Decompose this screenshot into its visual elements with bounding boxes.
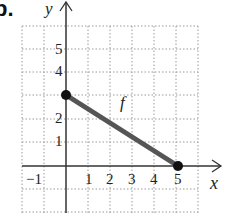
x-tick-label: 5	[174, 172, 182, 187]
y-tick-label: 2	[55, 111, 63, 126]
y-tick-label: 4	[55, 64, 63, 79]
start-point	[61, 90, 71, 100]
y-axis-label: y	[45, 0, 53, 17]
x-axis-label: x	[210, 174, 218, 192]
y-tick-label: 5	[55, 42, 63, 57]
y-axis	[60, 2, 72, 213]
x-axis	[22, 160, 221, 172]
x-tick-label: 4	[150, 172, 158, 187]
end-point	[173, 161, 183, 171]
x-tick-label: 3	[128, 172, 136, 187]
y-tick-label: 1	[55, 134, 63, 149]
function-label: f	[120, 94, 125, 111]
x-tick-label: 2	[106, 172, 114, 187]
x-tick-label: −1	[26, 172, 42, 187]
x-tick-label: 1	[85, 172, 93, 187]
